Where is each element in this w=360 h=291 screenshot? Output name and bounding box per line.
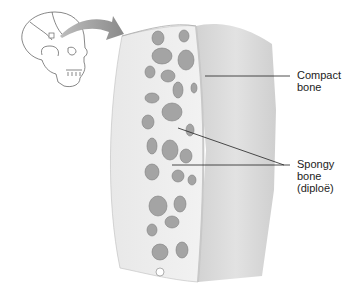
compact-bone-label: Compact bone xyxy=(297,69,341,93)
spongy-bone-label-line3: (diploë) xyxy=(297,182,334,194)
compact-bone-label-line2: bone xyxy=(297,81,341,93)
compact-bone-label-line1: Compact xyxy=(297,69,341,81)
spongy-bone-label-line2: bone xyxy=(297,170,334,182)
skull-icon xyxy=(22,12,87,87)
diagram-canvas xyxy=(0,0,360,291)
bone-block-icon xyxy=(110,24,276,282)
spongy-bone-label-line1: Spongy xyxy=(297,158,334,170)
spongy-bone-label: Spongy bone (diploë) xyxy=(297,158,334,194)
